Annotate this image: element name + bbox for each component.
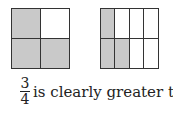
shaded-cell: [12, 39, 41, 69]
unshaded-cell: [144, 39, 158, 69]
denominator: 4: [21, 92, 30, 107]
unshaded-cell: [144, 9, 158, 39]
unshaded-cell: [130, 9, 144, 39]
shaded-cell: [101, 39, 115, 69]
numerator: 3: [21, 76, 30, 91]
fraction-model-three-quarters: [11, 8, 70, 69]
shaded-cell: [12, 9, 41, 39]
unshaded-cell: [130, 39, 144, 69]
shaded-cell: [115, 39, 129, 69]
fraction-model-three-eighths: [100, 8, 159, 69]
unshaded-cell: [41, 9, 70, 39]
comparison-caption: 3 4 is clearly greater than 3 8: [17, 76, 173, 107]
shaded-cell: [101, 9, 115, 39]
unshaded-cell: [115, 9, 129, 39]
shaded-cell: [41, 39, 70, 69]
caption-text: is clearly greater than: [33, 83, 173, 101]
fraction-three-quarters: 3 4: [20, 76, 30, 107]
